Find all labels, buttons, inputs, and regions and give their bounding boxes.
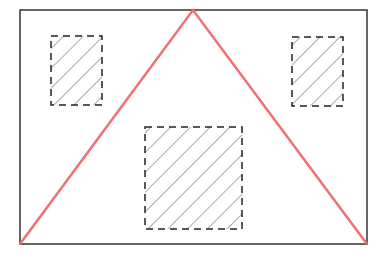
diagram-canvas [0,0,385,261]
hatched-box-top-right [292,37,343,106]
hatched-box-top-left [51,36,102,105]
hatched-box-bottom-center [145,127,242,229]
